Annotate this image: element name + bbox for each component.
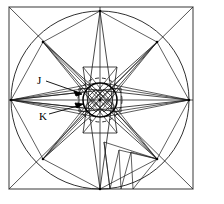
center-point	[99, 99, 102, 102]
label-k: K	[39, 111, 47, 122]
geometric-figure-container: J K	[0, 0, 224, 204]
geometry-drawing	[0, 0, 224, 204]
label-j: J	[37, 75, 41, 86]
square-diagonals	[9, 7, 193, 189]
